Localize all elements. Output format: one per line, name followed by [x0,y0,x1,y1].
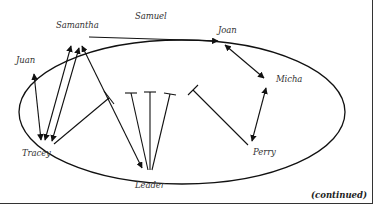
group-boundary-ellipse [19,40,345,184]
edge-leader-samantha [82,46,142,168]
edge-joan-micha [225,45,264,78]
edge-tracey-samantha-1 [45,46,71,140]
edge-leader-blocked-3 [152,94,170,170]
node-juan: Juan [16,55,35,65]
edge-perry-blocked [193,90,248,145]
node-samantha: Samantha [56,20,99,30]
edge-perry-micha [252,88,266,141]
node-tracey: Tracey [22,148,51,158]
node-perry: Perry [253,147,276,157]
edge-leader-blocked-1 [131,93,148,170]
sociogram-diagram [0,0,375,217]
node-leader: Leader [135,180,165,190]
node-joan: Joan [218,25,237,35]
node-samuel: Samuel [135,11,167,21]
continued-note: (continued) [311,190,367,200]
node-micha: Micha [276,74,302,84]
edge-juan-tracey [34,74,41,140]
